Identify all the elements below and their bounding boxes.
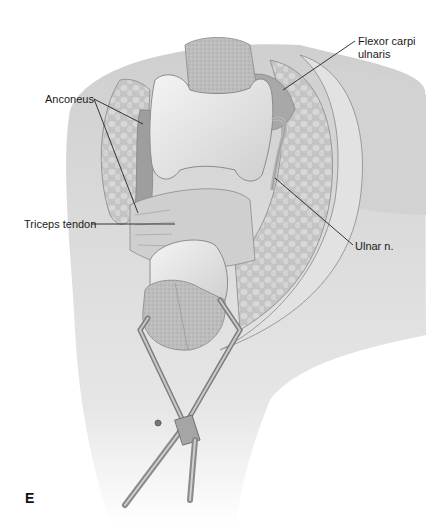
label-flexor-line2: ulnaris [358, 48, 415, 61]
elbow-anatomy-illustration [0, 0, 436, 526]
label-ulnar-nerve: Ulnar n. [355, 240, 394, 253]
label-anconeus: Anconeus [45, 93, 94, 106]
label-flexor-line1: Flexor carpi [358, 35, 415, 48]
label-triceps-tendon: Triceps tendon [24, 218, 96, 231]
label-flexor-carpi-ulnaris: Flexor carpi ulnaris [358, 35, 415, 61]
panel-letter: E [25, 490, 34, 506]
